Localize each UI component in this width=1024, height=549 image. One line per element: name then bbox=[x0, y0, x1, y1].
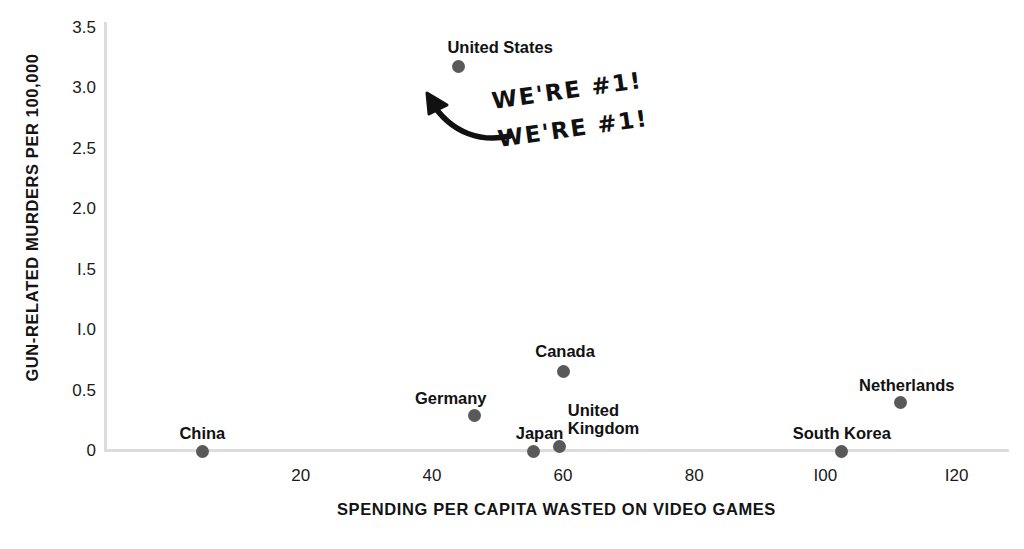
y-tick-label: 2.5 bbox=[36, 139, 96, 159]
y-tick-label: 3.0 bbox=[36, 78, 96, 98]
data-point bbox=[468, 409, 481, 422]
x-tick-label: 40 bbox=[397, 466, 467, 486]
y-tick-label: 2.0 bbox=[36, 199, 96, 219]
x-tick-label: I20 bbox=[922, 466, 992, 486]
data-point-label: South Korea bbox=[793, 425, 891, 442]
annotation-line-2: WE'RE #1! bbox=[496, 105, 650, 152]
data-point-label: United States bbox=[447, 39, 552, 56]
x-tick-label: 20 bbox=[266, 466, 336, 486]
data-point-label: UnitedKingdom bbox=[568, 402, 640, 437]
x-tick-label: I00 bbox=[790, 466, 860, 486]
data-point bbox=[894, 396, 907, 409]
y-tick-label: 0 bbox=[36, 441, 96, 461]
data-point-label: Netherlands bbox=[859, 377, 954, 394]
data-point bbox=[527, 445, 540, 458]
y-axis-line bbox=[104, 22, 107, 452]
x-tick-label: 80 bbox=[659, 466, 729, 486]
y-axis-ticks: 00.5I.0I.52.02.53.03.5 bbox=[26, 0, 96, 549]
data-point-label: China bbox=[179, 425, 225, 442]
y-tick-label: 3.5 bbox=[36, 18, 96, 38]
data-point bbox=[835, 445, 848, 458]
handwritten-annotation: WE'RE #1! WE'RE #1! bbox=[492, 84, 752, 174]
data-point-label: Canada bbox=[535, 343, 595, 360]
scatter-chart: GUN-RELATED MURDERS PER 100,000 SPENDING… bbox=[0, 0, 1024, 549]
y-tick-label: I.5 bbox=[36, 260, 96, 280]
data-point bbox=[557, 365, 570, 378]
data-point bbox=[452, 60, 465, 73]
x-axis-title: SPENDING PER CAPITA WASTED ON VIDEO GAME… bbox=[104, 500, 1009, 519]
x-tick-label: 60 bbox=[528, 466, 598, 486]
y-tick-label: 0.5 bbox=[36, 381, 96, 401]
data-point-label: Germany bbox=[415, 390, 487, 407]
data-point bbox=[196, 445, 209, 458]
y-tick-label: I.0 bbox=[36, 320, 96, 340]
annotation-line-1: WE'RE #1! bbox=[490, 67, 644, 114]
data-point bbox=[553, 440, 566, 453]
